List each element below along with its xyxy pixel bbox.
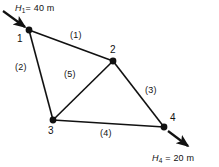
outlet-arrow-icon (168, 131, 188, 146)
inlet-head-unit: m (47, 3, 55, 13)
outlet-head-unit: m (187, 153, 195, 163)
outlet-head-value: 20 (173, 153, 183, 163)
inlet-head-equals: = (26, 3, 31, 13)
edge-label-3: (3) (145, 86, 157, 95)
edge-label-5: (5) (64, 70, 76, 79)
inlet-head-symbol: H (15, 3, 22, 13)
node-1-marker (26, 27, 33, 34)
edge-5-line (53, 61, 113, 120)
network-diagram-figure: H1= 40 m H4 = 20 m 1 2 3 4 (1) (2) (3) (… (0, 0, 219, 167)
edge-2-line (29, 30, 53, 120)
node-label-2: 2 (110, 45, 116, 55)
edge-label-1: (1) (70, 31, 82, 40)
inlet-head-label: H1= 40 m (15, 4, 55, 13)
node-markers (26, 27, 168, 131)
outlet-head-symbol: H (152, 153, 159, 163)
inlet-head-subscript: 1 (22, 7, 26, 14)
node-label-1: 1 (17, 34, 23, 44)
outlet-head-equals: = (165, 153, 170, 163)
node-3-marker (50, 117, 57, 124)
edge-label-2: (2) (15, 63, 27, 72)
inlet-head-value: 40 (34, 3, 44, 13)
node-label-4: 4 (170, 113, 176, 123)
node-2-marker (110, 58, 117, 65)
diagram-canvas (0, 0, 219, 167)
edge-4-line (53, 120, 164, 127)
outlet-head-label: H4 = 20 m (152, 154, 194, 163)
edge-label-4: (4) (100, 129, 112, 138)
edge-lines (29, 30, 164, 127)
node-label-3: 3 (48, 126, 54, 136)
node-4-marker (161, 124, 168, 131)
outlet-head-subscript: 4 (159, 157, 163, 164)
